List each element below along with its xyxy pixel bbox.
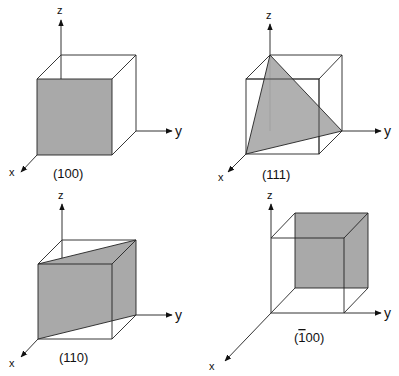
miller-planes-figure: z y x (100) z y x (111) (0, 0, 399, 376)
x-axis-label: x (218, 171, 224, 183)
z-axis-label: z (266, 9, 272, 21)
panel-111: z y x (111) (218, 9, 391, 183)
panel-110: z y x (110) (9, 189, 182, 369)
x-axis (228, 154, 246, 172)
x-axis (21, 339, 38, 357)
overbar-digit: 1 (298, 330, 305, 345)
y-axis-label: y (384, 305, 391, 321)
x-axis (21, 155, 37, 172)
plane-label: (100) (53, 166, 83, 181)
x-axis-label: x (9, 357, 15, 369)
y-axis-label: y (175, 307, 182, 323)
panel-100: z y x (100) (9, 4, 182, 181)
x-axis-label: x (9, 166, 15, 178)
shaded-plane-100 (37, 79, 112, 155)
y-axis-label: y (175, 123, 182, 139)
z-axis-label: z (267, 189, 273, 201)
plane-label: (110) (59, 350, 88, 365)
y-axis-label: y (384, 123, 391, 139)
x-axis (225, 313, 271, 361)
panel-bar100: z y x (100) (209, 189, 391, 372)
plane-label: (100) (294, 330, 324, 345)
plane-label: (111) (262, 167, 290, 182)
x-axis-label: x (209, 360, 215, 372)
z-axis-label: z (57, 4, 63, 16)
z-axis-label: z (58, 189, 64, 201)
